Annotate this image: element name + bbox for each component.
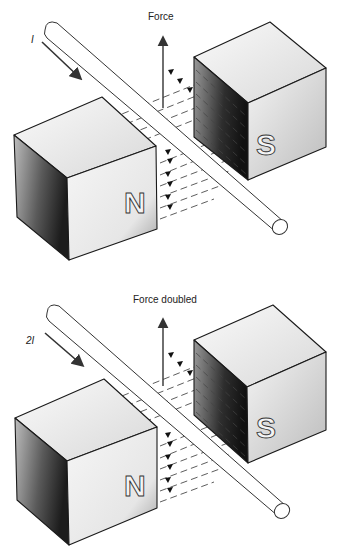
force-label: Force [148,11,174,22]
south-pole-label: S [256,128,276,161]
motor-effect-diagram: S I Force N [0,0,340,554]
north-magnet: N [14,97,157,260]
force-label: Force doubled [133,294,197,305]
south-magnet: S [194,22,326,180]
north-pole-label: N [124,469,146,502]
current-label: 2I [25,335,35,346]
north-magnet: N [15,379,157,545]
current-label: I [31,34,34,45]
panel-single-current: S I Force N [14,11,326,260]
panel-double-current: S 2I Force doubled N [15,294,326,545]
south-pole-label: S [256,411,276,444]
north-pole-label: N [124,186,146,219]
south-magnet: S [194,305,326,463]
